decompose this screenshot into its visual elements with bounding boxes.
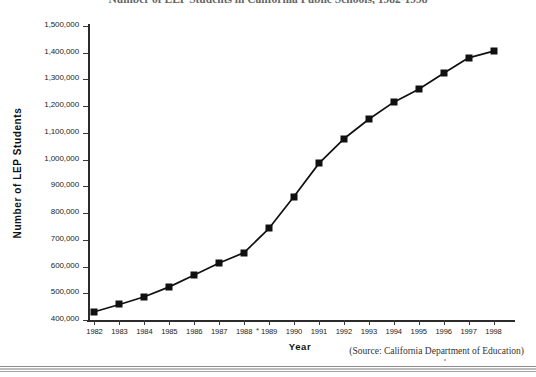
x-axis-tick (194, 320, 195, 325)
x-axis-tick (419, 320, 420, 325)
data-point-marker (440, 70, 447, 77)
data-point-marker (91, 308, 98, 315)
y-axis-tick-label: 500,000 (51, 287, 79, 296)
x-axis-tick-label: 1992 (336, 327, 352, 336)
x-axis-tick-label: 1986 (186, 327, 202, 336)
y-axis-tick-label: 1,400,000 (44, 47, 79, 56)
data-point-marker (415, 86, 422, 93)
data-point-marker (116, 301, 123, 308)
x-axis-tick (119, 320, 120, 325)
chart-title: Number of LEP Students in California Pub… (0, 0, 536, 4)
plot-area: 1,500,0001,400,0001,300,0001,200,0001,10… (88, 26, 512, 320)
x-axis-tick (244, 320, 245, 325)
x-axis-tick (219, 320, 220, 325)
x-axis-tick-label: 1982 (86, 327, 102, 336)
lep-students-line-series (88, 26, 512, 320)
x-axis-tick-label: 1985 (161, 327, 177, 336)
x-axis-tick (369, 320, 370, 325)
source-note: (Source: California Department of Educat… (349, 346, 524, 356)
x-axis-tick (494, 320, 495, 325)
x-axis-tick-label: 1987 (211, 327, 227, 336)
x-axis-tick-label: 1998 (485, 327, 501, 336)
x-axis-tick (469, 320, 470, 325)
data-point-marker (191, 272, 198, 279)
x-axis-tick-label: 1984 (136, 327, 152, 336)
data-point-marker (490, 48, 497, 55)
data-point-marker (266, 225, 273, 232)
data-point-marker (315, 160, 322, 167)
data-point-marker (241, 249, 248, 256)
x-axis-tick-label: 1996 (435, 327, 451, 336)
x-axis-tick-label: 1989 (261, 327, 277, 336)
data-point-marker (216, 260, 223, 267)
x-axis-tick (144, 320, 145, 325)
y-axis-tick-label: 400,000 (51, 314, 79, 323)
y-axis-tick-label: 1,100,000 (44, 127, 79, 136)
x-axis-tick (269, 320, 270, 325)
data-point-marker (291, 193, 298, 200)
data-point-marker (340, 135, 347, 142)
x-axis-tick-label: 1997 (460, 327, 476, 336)
x-axis-tick (394, 320, 395, 325)
x-axis-tick-label: 1994 (386, 327, 402, 336)
stray-scan-mark: * (256, 326, 259, 335)
x-axis-tick (94, 320, 95, 325)
data-point-marker (465, 54, 472, 61)
y-axis-title: Number of LEP Students (12, 26, 28, 320)
y-axis-tick-label: 1,300,000 (44, 73, 79, 82)
y-axis-tick-label: 800,000 (51, 207, 79, 216)
x-axis-tick-label: 1988 (236, 327, 252, 336)
y-axis-tick: 400,000 (83, 320, 88, 321)
data-point-marker (166, 283, 173, 290)
scan-artifact-rule (0, 368, 536, 370)
y-axis-tick-label: 1,200,000 (44, 100, 79, 109)
y-axis-tick-label: 1,000,000 (44, 154, 79, 163)
y-axis-tick-label: 900,000 (51, 180, 79, 189)
x-axis-tick (444, 320, 445, 325)
x-axis-tick (319, 320, 320, 325)
y-axis-tick-label: 600,000 (51, 261, 79, 270)
x-axis-tick-label: 1991 (311, 327, 327, 336)
x-axis-tick-label: 1983 (111, 327, 127, 336)
x-axis-tick (294, 320, 295, 325)
x-axis-line (87, 320, 515, 322)
x-axis-tick-label: 1995 (411, 327, 427, 336)
data-point-marker (141, 293, 148, 300)
data-point-marker (390, 99, 397, 106)
y-axis-tick-label: 700,000 (51, 234, 79, 243)
scan-artifact-speck (444, 359, 446, 361)
x-axis-tick-label: 1993 (361, 327, 377, 336)
y-axis-tick-label: 1,500,000 (44, 20, 79, 29)
scan-artifact-rule (0, 366, 536, 367)
x-axis-tick-label: 1990 (286, 327, 302, 336)
scan-artifact-rule (0, 371, 536, 372)
series-polyline (94, 51, 493, 312)
data-point-marker (365, 116, 372, 123)
x-axis-tick (344, 320, 345, 325)
x-axis-tick (169, 320, 170, 325)
